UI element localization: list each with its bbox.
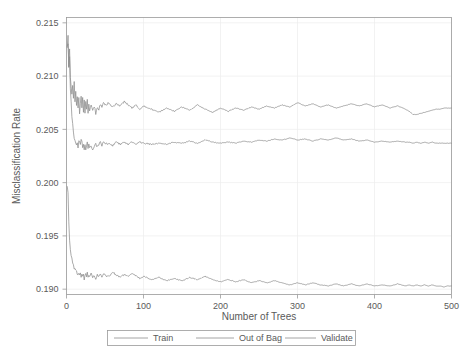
x-tick-label: 400	[367, 301, 382, 311]
x-tick-label: 200	[213, 301, 228, 311]
y-axis-title: Misclassification Rate	[11, 107, 22, 204]
chart-figure: 0.1900.1950.2000.2050.2100.215 010020030…	[0, 0, 468, 362]
x-axis-title: Number of Trees	[222, 311, 296, 322]
y-tick-label: 0.210	[36, 71, 59, 81]
legend-label-train: Train	[153, 333, 173, 343]
x-tick-label: 0	[64, 301, 69, 311]
y-tick-label: 0.190	[36, 284, 59, 294]
legend-label-validate: Validate	[321, 333, 353, 343]
y-tick-label: 0.200	[36, 178, 59, 188]
misclassification-rate-line-chart: 0.1900.1950.2000.2050.2100.215 010020030…	[0, 0, 468, 362]
x-tick-label: 300	[290, 301, 305, 311]
y-tick-label: 0.195	[36, 231, 59, 241]
x-tick-label: 100	[136, 301, 151, 311]
y-tick-label: 0.205	[36, 125, 59, 135]
y-tick-label: 0.215	[36, 18, 59, 28]
legend-label-out-of-bag: Out of Bag	[239, 333, 282, 343]
figure-background	[0, 0, 468, 362]
x-tick-label: 500	[444, 301, 459, 311]
